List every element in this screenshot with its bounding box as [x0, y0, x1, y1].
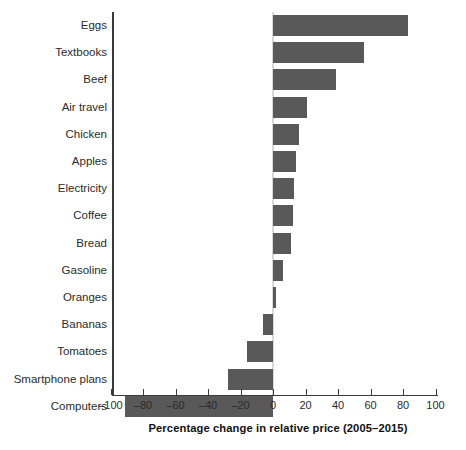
x-tick-mark — [306, 389, 307, 395]
x-tick-mark — [273, 389, 274, 395]
x-tick-mark — [176, 389, 177, 395]
x-tick-mark — [403, 389, 404, 395]
x-tick-mark — [143, 389, 144, 395]
x-tick-mark — [208, 389, 209, 395]
x-tick-mark — [436, 389, 437, 395]
x-tick-mark — [338, 389, 339, 395]
x-tick-label: 100 — [416, 399, 456, 411]
x-tick-mark — [241, 389, 242, 395]
x-axis-ticks: –100–80–60–40–20020406080100 — [0, 0, 466, 450]
x-tick-mark — [111, 389, 112, 395]
bar-chart: EggsTextbooksBeefAir travelChickenApples… — [0, 0, 466, 450]
x-axis-title: Percentage change in relative price (200… — [113, 422, 443, 434]
x-tick-mark — [371, 389, 372, 395]
